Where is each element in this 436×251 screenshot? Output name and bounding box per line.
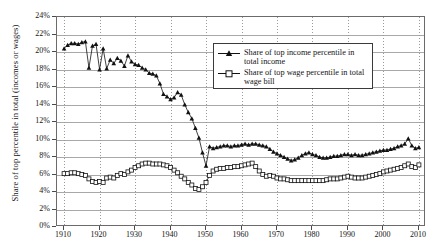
x-tick-label: 1970 (256, 230, 296, 239)
data-point-marker-triangle (190, 116, 195, 120)
data-point-marker-square (204, 180, 208, 184)
y-tick-mark (52, 69, 56, 70)
legend-label-income: Share of top income percentile in total … (244, 48, 368, 67)
data-point-marker-square (417, 163, 421, 167)
data-point-marker-triangle (108, 58, 113, 62)
y-tick-label: 18% (35, 64, 50, 73)
data-point-marker-triangle (204, 163, 209, 167)
data-point-marker-triangle (158, 81, 163, 85)
y-tick-label: 8% (39, 151, 50, 160)
y-tick-mark (52, 86, 56, 87)
y-tick-label: 4% (39, 186, 50, 195)
data-point-marker-triangle (406, 136, 411, 140)
data-point-marker-square (101, 180, 105, 184)
x-tick-label: 1950 (185, 230, 225, 239)
data-point-marker-triangle (101, 46, 106, 50)
y-tick-mark (52, 16, 56, 17)
data-point-marker-triangle (172, 95, 177, 99)
y-tick-mark (52, 51, 56, 52)
x-tick-mark (418, 226, 419, 230)
x-tick-mark (205, 226, 206, 230)
x-tick-mark (382, 226, 383, 230)
y-tick-label: 2% (39, 204, 50, 213)
x-tick-label: 1990 (327, 230, 367, 239)
y-tick-label: 10% (35, 134, 50, 143)
data-point-marker-triangle (175, 90, 180, 94)
x-tick-mark (99, 226, 100, 230)
data-point-marker-triangle (126, 53, 131, 57)
y-tick-mark (52, 226, 56, 227)
data-point-marker-triangle (200, 150, 205, 154)
data-point-marker-triangle (193, 126, 198, 130)
data-point-marker-triangle (307, 150, 312, 154)
data-point-marker-triangle (417, 145, 422, 149)
data-point-marker-triangle (353, 152, 358, 156)
y-tick-mark (52, 191, 56, 192)
data-point-marker-triangle (410, 143, 415, 147)
y-tick-mark (52, 121, 56, 122)
x-tick-mark (276, 226, 277, 230)
data-point-marker-triangle (207, 144, 212, 148)
x-tick-label: 1930 (114, 230, 154, 239)
x-tick-mark (170, 226, 171, 230)
x-tick-label: 1920 (79, 230, 119, 239)
y-tick-label: 14% (35, 99, 50, 108)
x-tick-mark (311, 226, 312, 230)
y-tick-label: 24% (35, 11, 50, 20)
y-tick-label: 22% (35, 29, 50, 38)
data-point-marker-triangle (161, 92, 166, 96)
data-point-marker-triangle (197, 135, 202, 139)
chart-container: Share of top percentile in total (income… (0, 0, 436, 251)
data-point-marker-triangle (97, 67, 102, 71)
legend-item-wage: Share of top wage percentile in total wa… (218, 68, 368, 87)
data-point-marker-triangle (94, 42, 99, 46)
data-point-marker-square (200, 185, 204, 189)
x-tick-mark (63, 226, 64, 230)
y-tick-mark (52, 156, 56, 157)
legend-item-income: Share of top income percentile in total … (218, 48, 368, 67)
chart-legend: Share of top income percentile in total … (213, 43, 373, 89)
x-tick-label: 1980 (291, 230, 331, 239)
x-tick-label: 1910 (43, 230, 83, 239)
data-point-marker-square (208, 173, 212, 177)
data-point-marker-triangle (186, 110, 191, 114)
data-point-marker-triangle (243, 142, 248, 146)
data-point-marker-triangle (115, 56, 120, 60)
y-tick-mark (52, 174, 56, 175)
x-tick-label: 1940 (150, 230, 190, 239)
y-tick-mark (52, 34, 56, 35)
x-tick-label: 1960 (221, 230, 261, 239)
data-point-marker-square (254, 165, 258, 169)
data-point-marker-triangle (104, 66, 109, 70)
data-point-marker-triangle (129, 59, 134, 63)
x-tick-mark (241, 226, 242, 230)
data-point-marker-triangle (83, 39, 88, 43)
x-tick-label: 2010 (398, 230, 436, 239)
y-tick-mark (52, 209, 56, 210)
data-point-marker-triangle (182, 102, 187, 106)
data-point-marker-triangle (87, 65, 92, 69)
data-point-marker-triangle (122, 64, 127, 68)
x-tick-mark (347, 226, 348, 230)
open-square-marker-icon (218, 68, 240, 79)
y-tick-mark (52, 104, 56, 105)
legend-label-wage: Share of top wage percentile in total wa… (244, 68, 368, 87)
y-tick-mark (52, 139, 56, 140)
y-tick-label: 20% (35, 46, 50, 55)
y-tick-label: 16% (35, 81, 50, 90)
y-axis-title: Share of top percentile in total (income… (10, 3, 20, 223)
y-tick-label: 6% (39, 169, 50, 178)
y-tick-label: 0% (39, 221, 50, 230)
y-tick-label: 12% (35, 116, 50, 125)
filled-triangle-marker-icon (218, 48, 240, 59)
x-tick-mark (134, 226, 135, 230)
x-tick-label: 2000 (362, 230, 402, 239)
